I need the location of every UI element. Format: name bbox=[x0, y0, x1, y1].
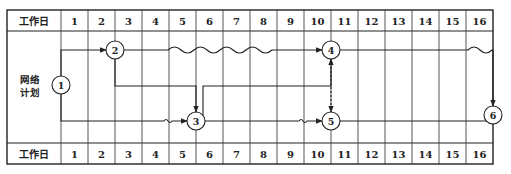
node-3: 3 bbox=[187, 112, 205, 130]
footer-day-5: 5 bbox=[179, 149, 186, 160]
svg-text:2: 2 bbox=[112, 45, 119, 56]
header-day-9: 9 bbox=[287, 16, 294, 27]
footer-day-6: 6 bbox=[206, 149, 213, 160]
header-day-7: 7 bbox=[233, 16, 240, 27]
header-day-12: 12 bbox=[365, 16, 379, 27]
footer-row: 工作日 12345678910111213141516 bbox=[19, 148, 486, 160]
node-2: 2 bbox=[106, 41, 124, 59]
footer-day-4: 4 bbox=[152, 149, 159, 160]
footer-day-11: 11 bbox=[338, 149, 352, 160]
footer-day-9: 9 bbox=[287, 149, 294, 160]
svg-text:3: 3 bbox=[193, 116, 200, 127]
header-day-16: 16 bbox=[473, 16, 487, 27]
node-5: 5 bbox=[322, 112, 340, 130]
footer-day-16: 16 bbox=[473, 149, 487, 160]
footer-day-13: 13 bbox=[392, 149, 406, 160]
header-day-2: 2 bbox=[98, 16, 105, 27]
footer-day-7: 7 bbox=[233, 149, 240, 160]
arrow-1-2 bbox=[61, 50, 106, 76]
footer-day-8: 8 bbox=[260, 149, 267, 160]
header-day-1: 1 bbox=[71, 16, 78, 27]
header-day-4: 4 bbox=[152, 16, 159, 27]
footer-day-12: 12 bbox=[365, 149, 379, 160]
side-label-line2: 计划 bbox=[20, 87, 40, 98]
footer-day-2: 2 bbox=[98, 149, 105, 160]
arrow-3-4 bbox=[203, 59, 331, 115]
svg-text:5: 5 bbox=[328, 116, 335, 127]
side-label-line1: 网络 bbox=[20, 74, 40, 85]
node-1: 1 bbox=[52, 76, 70, 94]
time-scaled-network-diagram: 工作日 12345678910111213141516 工作日 12345678… bbox=[0, 0, 511, 174]
arrow-1-3 bbox=[61, 94, 187, 123]
footer-day-14: 14 bbox=[419, 149, 433, 160]
footer-day-15: 15 bbox=[446, 149, 460, 160]
header-day-10: 10 bbox=[311, 16, 325, 27]
node-6: 6 bbox=[484, 106, 502, 124]
arrow-2-3 bbox=[115, 59, 196, 112]
header-day-6: 6 bbox=[206, 16, 213, 27]
header-row: 工作日 12345678910111213141516 bbox=[19, 15, 486, 27]
footer-label: 工作日 bbox=[19, 148, 49, 160]
header-day-3: 3 bbox=[125, 16, 132, 27]
svg-text:6: 6 bbox=[490, 110, 497, 121]
header-day-5: 5 bbox=[179, 16, 186, 27]
footer-day-1: 1 bbox=[71, 149, 78, 160]
header-day-14: 14 bbox=[419, 16, 433, 27]
svg-text:4: 4 bbox=[328, 45, 335, 56]
header-day-13: 13 bbox=[392, 16, 406, 27]
arrow-5-6 bbox=[340, 121, 493, 124]
header-day-8: 8 bbox=[260, 16, 267, 27]
node-4: 4 bbox=[322, 41, 340, 59]
header-label: 工作日 bbox=[19, 15, 49, 27]
header-day-15: 15 bbox=[446, 16, 460, 27]
footer-day-3: 3 bbox=[125, 149, 132, 160]
svg-text:1: 1 bbox=[58, 80, 65, 91]
table-grid bbox=[7, 10, 493, 164]
header-day-11: 11 bbox=[338, 16, 352, 27]
arrow-4-6 bbox=[340, 47, 493, 106]
footer-day-10: 10 bbox=[311, 149, 325, 160]
side-label: 网络 计划 bbox=[20, 74, 40, 98]
